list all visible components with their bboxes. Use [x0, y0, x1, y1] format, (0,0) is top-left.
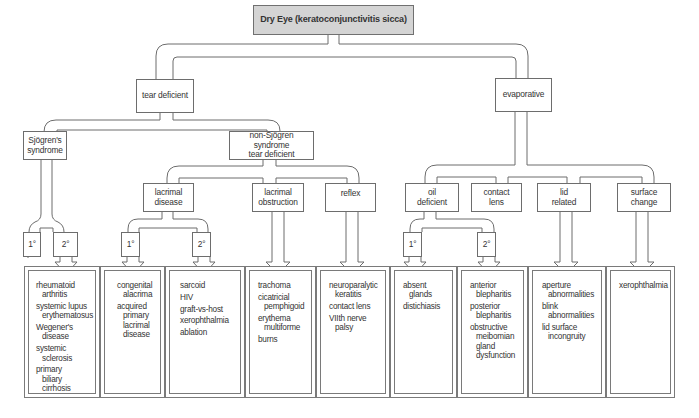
list-item-text: contact lens [329, 302, 381, 311]
list-item: erythemamultiforme [258, 314, 307, 333]
panel-inner: neuroparalytickeratitis contact lens VII… [320, 270, 386, 394]
list-item-text: disease [36, 332, 91, 341]
node-oil-deficient: oil deficient [405, 183, 459, 212]
list-item-text: blink [542, 302, 597, 311]
node-label-line: related [552, 198, 577, 208]
panel-lid-related-causes: apertureabnormalities blinkabnormalities… [528, 266, 606, 398]
root-title: Dry Eye (keratoconjunctivitis sicca) [260, 15, 407, 25]
node-tear-deficient: tear deficient [136, 79, 194, 113]
node-label: tear deficient [142, 91, 188, 101]
panel-inner: apertureabnormalities blinkabnormalities… [532, 270, 602, 394]
panel-reflex-causes: neuroparalytickeratitis contact lens VII… [316, 266, 390, 398]
node-label-line: obstruction [258, 198, 297, 208]
panel-lacrimal-secondary-causes: sarcoid HIV graft-vs-host xerophthalmia … [165, 266, 245, 398]
list-item: absentglands [403, 281, 448, 300]
node-lacrimal-obstruction: lacrimal obstruction [252, 183, 304, 212]
list-item-text: dysfunction [470, 351, 519, 360]
panel-inner: congenitalalacrima acquiredprimarylacrim… [104, 270, 161, 394]
list-item: blinkabnormalities [542, 302, 597, 321]
list-item: acquiredprimarylacrimaldisease [117, 302, 156, 339]
node-non-sjogren-tear-deficient: non-Sjögren syndrome tear deficient [229, 131, 314, 160]
node-label: evaporative [503, 90, 545, 100]
node-label: reflex [341, 189, 361, 199]
panel-inner: trachoma cicatricialpemphigoid erythemam… [249, 270, 312, 394]
list-item-text: arthritis [36, 290, 91, 299]
list-item: burns [258, 335, 307, 344]
sjogren-secondary-box: 2° [53, 232, 78, 257]
node-label-line: lens [489, 198, 504, 208]
list-item: anteriorblepharitis [470, 281, 519, 300]
panel-inner: rheumatoidarthritis systemic lupuserythe… [28, 270, 96, 394]
node-lid-related: lid related [537, 183, 591, 212]
list-item-text: posterior [470, 302, 519, 311]
panel-sjogren-causes: rheumatoidarthritis systemic lupuserythe… [24, 266, 100, 398]
list-item-text: primary [117, 311, 156, 320]
list-item: contact lens [329, 302, 381, 311]
panel-lacrimal-obstruction-causes: trachoma cicatricialpemphigoid erythemam… [245, 266, 316, 398]
node-label-line: syndrome [27, 146, 63, 156]
list-item-text: multiforme [258, 323, 307, 332]
dry-eye-classification-diagram: Dry Eye (keratoconjunctivitis sicca) tea… [0, 0, 699, 418]
list-item-text: meibomian [470, 332, 519, 341]
degree-label: 2° [198, 240, 206, 250]
list-item: ablation [180, 328, 236, 337]
list-item-text: distichiasis [403, 302, 448, 311]
list-item-text: pemphigoid [258, 302, 307, 311]
list-item: lid surfaceincongruity [542, 323, 597, 342]
panel-inner: absentglands distichiasis [394, 270, 453, 394]
list-item: graft-vs-host [180, 305, 236, 314]
list-item-text: trachoma [258, 281, 307, 290]
panel-oil-primary-causes: absentglands distichiasis [390, 266, 457, 398]
lacrimal-primary-box: 1° [121, 232, 140, 257]
list-item-text: anterior [470, 281, 519, 290]
list-item: xerophthalmia [180, 316, 236, 325]
list-item: sarcoid [180, 281, 236, 290]
lacrimal-secondary-box: 2° [192, 232, 211, 257]
list-item-text: systemic [36, 344, 91, 353]
list-item-text: VIIth nerve [329, 314, 381, 323]
panel-surface-change-causes: xerophthalmia [606, 266, 675, 398]
list-item: systemicsclerosis [36, 344, 91, 363]
list-item-text: acquired [117, 302, 156, 311]
list-item: trachoma [258, 281, 307, 290]
list-item-text: congenital [117, 281, 156, 290]
list-item-text: blepharitis [470, 311, 519, 320]
list-item-text: absent [403, 281, 448, 290]
list-item-text: HIV [180, 293, 236, 302]
list-item-text: Wegener's [36, 323, 91, 332]
node-reflex: reflex [325, 183, 376, 212]
list-item-text: disease [117, 330, 156, 339]
list-item-text: aperture [542, 281, 597, 290]
degree-label: 1° [28, 240, 36, 250]
node-surface-change: surface change [617, 183, 671, 212]
panel-inner: anteriorblepharitis posteriorblepharitis… [461, 270, 524, 394]
node-evaporative: evaporative [495, 78, 552, 112]
list-item-text: ablation [180, 328, 236, 337]
panel-inner: xerophthalmia [610, 270, 671, 394]
list-item-text: blepharitis [470, 290, 519, 299]
degree-label: 2° [483, 240, 491, 250]
node-sjogren-syndrome: Sjögren's syndrome [23, 131, 67, 160]
list-item-text: xerophthalmia [180, 316, 236, 325]
sjogren-primary-box: 1° [23, 232, 41, 257]
list-item-text: systemic lupus [36, 302, 91, 311]
list-item-text: sclerosis [36, 354, 91, 363]
node-label-line: tear deficient [249, 150, 295, 160]
degree-label: 2° [62, 240, 70, 250]
degree-label: 1° [127, 240, 135, 250]
list-item-text: incongruity [542, 332, 597, 341]
list-item: apertureabnormalities [542, 281, 597, 300]
list-item-text: erythema [258, 314, 307, 323]
panel-oil-secondary-causes: anteriorblepharitis posteriorblepharitis… [457, 266, 528, 398]
node-label-line: non-Sjögren syndrome [232, 131, 311, 150]
panel-inner: sarcoid HIV graft-vs-host xerophthalmia … [169, 270, 241, 394]
list-item-text: glands [403, 290, 448, 299]
list-item-text: sarcoid [180, 281, 236, 290]
list-item: congenitalalacrima [117, 281, 156, 300]
root-node-dry-eye: Dry Eye (keratoconjunctivitis sicca) [253, 5, 414, 35]
list-item-text: rheumatoid [36, 281, 91, 290]
list-item: xerophthalmia [619, 281, 666, 290]
list-item: systemic lupuserythematosus [36, 302, 91, 321]
list-item-text: gland [470, 342, 519, 351]
list-item: primarybiliary cirrhosis [36, 365, 91, 393]
